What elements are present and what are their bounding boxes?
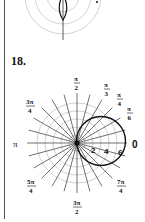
svg-text:π: π [104, 81, 108, 89]
angle-label-pi-4: π 4 [117, 91, 123, 108]
svg-text:π: π [117, 91, 121, 99]
svg-text:6: 6 [128, 114, 132, 122]
svg-text:7π: 7π [117, 178, 125, 186]
angle-label-pi-2: π 2 [74, 75, 80, 92]
svg-text:3: 3 [105, 90, 109, 98]
svg-text:2: 2 [75, 208, 79, 216]
angle-label-5pi-4: 5π 4 [27, 178, 36, 195]
radial-tick-6: 6 [118, 148, 123, 157]
svg-text:3π: 3π [73, 199, 81, 207]
angle-label-3pi-4: 3π 4 [26, 98, 35, 115]
svg-text:3π: 3π [26, 98, 34, 106]
angle-label-0: 0 [132, 139, 138, 150]
radial-tick-2: 2 [91, 146, 96, 155]
svg-text:4: 4 [119, 187, 123, 195]
polar-graph: 2 4 6 0 π π 2 π 3 π 4 π 6 3π 4 [0, 0, 145, 222]
svg-text:4: 4 [118, 100, 122, 108]
angle-label-pi-3: π 3 [104, 81, 110, 98]
radial-tick-4: 4 [104, 147, 109, 156]
angle-label-pi-6: π 6 [127, 105, 133, 122]
svg-text:4: 4 [29, 187, 33, 195]
svg-text:π: π [74, 75, 78, 83]
svg-text:π: π [127, 105, 131, 113]
svg-text:5π: 5π [27, 178, 35, 186]
svg-text:4: 4 [28, 107, 32, 115]
textbook-page: 18. [0, 0, 145, 222]
angle-label-3pi-2: 3π 2 [73, 199, 82, 216]
angle-label-7pi-4: 7π 4 [117, 178, 126, 195]
svg-text:2: 2 [75, 84, 79, 92]
angle-label-pi: π [13, 139, 18, 149]
